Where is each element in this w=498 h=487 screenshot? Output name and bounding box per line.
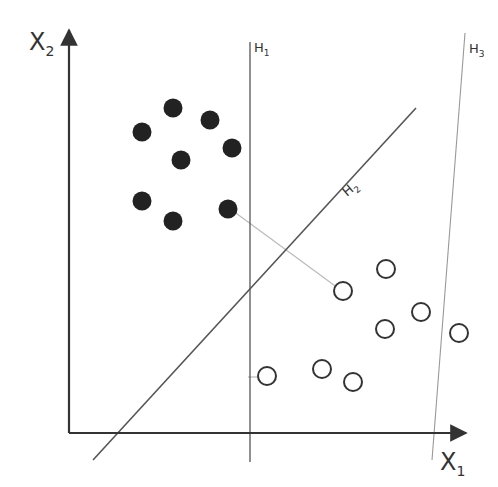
hyperplane-label-3: H3 <box>469 41 485 59</box>
hollow-point <box>412 303 430 321</box>
hollow-point <box>313 360 331 378</box>
axes: X1 X2 <box>29 28 466 479</box>
filled-point <box>172 151 191 170</box>
hollow-point <box>450 324 468 342</box>
filled-point <box>219 200 238 219</box>
hyperplane-label-2: H2 <box>339 178 362 202</box>
filled-point <box>201 111 220 130</box>
hollow-point <box>377 260 395 278</box>
hyperplane-label-1: H1 <box>254 40 270 58</box>
hollow-point <box>376 320 394 338</box>
hollow-point <box>344 373 362 391</box>
filled-point <box>223 139 242 158</box>
y-axis-label: X2 <box>29 28 54 59</box>
class-hollow-points <box>258 260 468 391</box>
filled-point <box>164 99 183 118</box>
filled-point <box>133 192 152 211</box>
filled-point <box>133 123 152 142</box>
x-axis-label: X1 <box>440 448 465 479</box>
class-filled-points <box>133 99 242 231</box>
svm-hyperplane-diagram: H1H2H3 X1 X2 <box>0 0 498 487</box>
hollow-point <box>334 282 352 300</box>
filled-point <box>164 212 183 231</box>
hollow-point <box>258 367 276 385</box>
hyperplanes: H1H2H3 <box>93 33 485 462</box>
hyperplane-2 <box>93 108 416 460</box>
hyperplane-3 <box>432 33 465 460</box>
